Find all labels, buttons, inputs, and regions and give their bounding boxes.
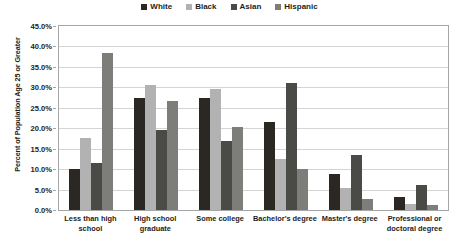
legend-swatch-icon xyxy=(231,4,237,10)
bar-black[interactable] xyxy=(405,204,416,210)
bar-series-container xyxy=(59,26,448,210)
bar-black[interactable] xyxy=(80,138,91,210)
x-axis-label-line: doctoral degree xyxy=(382,224,447,234)
y-tick-label: 25.0% xyxy=(30,103,52,112)
y-tick-label: 30.0% xyxy=(30,83,52,92)
bar-black[interactable] xyxy=(145,85,156,210)
bar-asian[interactable] xyxy=(156,130,167,210)
legend-swatch-icon xyxy=(186,4,192,10)
y-tick-label: 10.0% xyxy=(30,165,52,174)
x-axis-label-line: graduate xyxy=(123,224,188,234)
y-tick-label: 20.0% xyxy=(30,124,52,133)
bar-black[interactable] xyxy=(340,188,351,210)
bar-group xyxy=(318,26,383,210)
y-tick-label: 40.0% xyxy=(30,42,52,51)
bar-asian[interactable] xyxy=(286,83,297,210)
x-axis-label-line: High school xyxy=(123,214,188,224)
x-axis-label-line: Professional or xyxy=(382,214,447,224)
x-axis-label: Master's degree xyxy=(317,214,382,224)
bar-black[interactable] xyxy=(275,159,286,210)
bar-hispanic[interactable] xyxy=(297,169,308,210)
legend-swatch-icon xyxy=(275,4,281,10)
bar-black[interactable] xyxy=(210,89,221,210)
y-axis-ticks: 45.0%40.0%35.0%30.0%25.0%20.0%15.0%10.0%… xyxy=(0,25,56,211)
y-tick-label: 0.0% xyxy=(35,206,52,215)
bar-white[interactable] xyxy=(69,169,80,210)
y-tick-mark xyxy=(53,26,56,27)
y-tick-label: 35.0% xyxy=(30,62,52,71)
y-tick-mark xyxy=(53,87,56,88)
y-tick-mark xyxy=(53,128,56,129)
y-tick-mark xyxy=(53,169,56,170)
bar-white[interactable] xyxy=(134,98,145,210)
bar-asian[interactable] xyxy=(351,155,362,210)
y-tick-mark xyxy=(53,149,56,150)
y-tick-label: 5.0% xyxy=(35,185,52,194)
x-axis-label: Some college xyxy=(188,214,253,224)
legend-label: Black xyxy=(195,3,216,11)
bar-group xyxy=(59,26,124,210)
bar-asian[interactable] xyxy=(416,185,427,210)
bar-white[interactable] xyxy=(394,197,405,210)
x-axis-label-line: Less than high xyxy=(58,214,123,224)
bar-group xyxy=(124,26,189,210)
bar-hispanic[interactable] xyxy=(232,127,243,210)
y-tick-label: 15.0% xyxy=(30,144,52,153)
bar-group xyxy=(189,26,254,210)
y-tick-label: 45.0% xyxy=(30,22,52,31)
bar-hispanic[interactable] xyxy=(362,199,373,210)
plot-area xyxy=(58,25,449,211)
y-tick-mark xyxy=(53,67,56,68)
y-tick-mark xyxy=(53,210,56,211)
bar-group xyxy=(254,26,319,210)
legend-label: Asian xyxy=(240,3,262,11)
x-axis-label: Professional ordoctoral degree xyxy=(382,214,447,233)
x-axis-label-line: Some college xyxy=(188,214,253,224)
bar-group xyxy=(383,26,448,210)
bar-hispanic[interactable] xyxy=(102,53,113,210)
y-tick-mark xyxy=(53,46,56,47)
x-axis-label-line: school xyxy=(58,224,123,234)
bar-white[interactable] xyxy=(264,122,275,210)
legend-item-black[interactable]: Black xyxy=(186,3,216,11)
legend-label: Hispanic xyxy=(284,3,317,11)
chart-legend: WhiteBlackAsianHispanic xyxy=(0,3,459,11)
legend-item-white[interactable]: White xyxy=(141,3,172,11)
x-axis-label: Bachelor's degree xyxy=(253,214,318,224)
y-tick-mark xyxy=(53,190,56,191)
bar-asian[interactable] xyxy=(221,141,232,210)
x-axis-label: Less than highschool xyxy=(58,214,123,233)
legend-item-hispanic[interactable]: Hispanic xyxy=(275,3,317,11)
legend-swatch-icon xyxy=(141,4,147,10)
legend-label: White xyxy=(150,3,172,11)
bar-hispanic[interactable] xyxy=(427,205,438,210)
legend-item-asian[interactable]: Asian xyxy=(231,3,262,11)
bar-chart: WhiteBlackAsianHispanic Percent of Popul… xyxy=(0,0,459,248)
bar-hispanic[interactable] xyxy=(167,101,178,210)
bar-white[interactable] xyxy=(329,174,340,210)
x-axis-label-line: Bachelor's degree xyxy=(253,214,318,224)
x-axis-label: High schoolgraduate xyxy=(123,214,188,233)
x-axis-labels: Less than highschoolHigh schoolgraduateS… xyxy=(58,214,449,248)
bar-white[interactable] xyxy=(199,98,210,210)
x-axis-label-line: Master's degree xyxy=(317,214,382,224)
y-tick-mark xyxy=(53,108,56,109)
bar-asian[interactable] xyxy=(91,163,102,210)
